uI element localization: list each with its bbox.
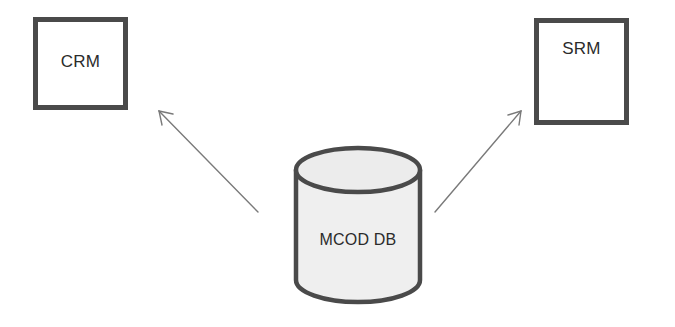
mcod-db-label: MCOD DB xyxy=(296,231,420,249)
arrow-db-to-srm xyxy=(435,111,521,212)
arrow-db-to-crm xyxy=(159,111,258,212)
mcod-db-node xyxy=(296,148,420,302)
diagram-canvas xyxy=(0,0,675,327)
